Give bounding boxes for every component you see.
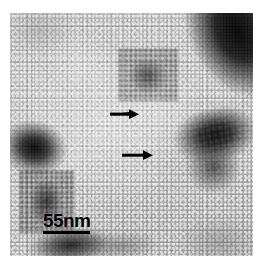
figure-root: 55nm [0, 0, 272, 271]
scale-bar-label: 55nm [43, 211, 101, 230]
electron-micrograph-image: 55nm [10, 13, 253, 256]
scale-bar-line [43, 231, 90, 234]
scale-bar: 55nm [43, 211, 101, 234]
annotation-arrow-upper [110, 108, 140, 120]
annotation-arrow-lower [122, 149, 154, 161]
